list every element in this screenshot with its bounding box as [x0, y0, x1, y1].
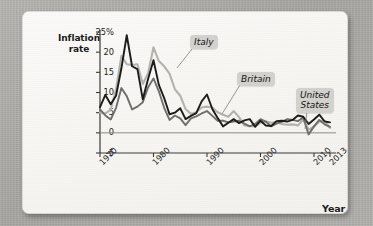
series-line-britain	[100, 35, 330, 127]
series-callout-united-states: United States	[296, 88, 334, 113]
series-callout-italy: Italy	[190, 35, 218, 49]
britain-leader-line	[222, 85, 240, 114]
series-callout-britain: Britain	[237, 72, 275, 86]
callout-us-line1: United	[300, 90, 330, 101]
callout-us-line2: States	[300, 100, 330, 111]
italy-leader-line	[177, 49, 192, 68]
figure-root: Inflation rate Year 25%20151050-5 197019…	[0, 0, 373, 226]
chart-plot-area	[22, 11, 348, 214]
figure-card: Inflation rate Year 25%20151050-5 197019…	[22, 11, 348, 214]
